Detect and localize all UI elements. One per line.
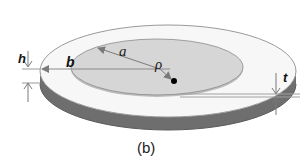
label-a: a: [119, 43, 127, 59]
disk-diagram: h b a ρ t (b): [0, 0, 306, 160]
label-h: h: [18, 51, 26, 66]
label-t: t: [283, 70, 288, 85]
label-rho: ρ: [154, 56, 162, 72]
label-b: b: [66, 54, 75, 70]
field-point: [171, 78, 177, 84]
figure-caption: (b): [137, 139, 155, 156]
